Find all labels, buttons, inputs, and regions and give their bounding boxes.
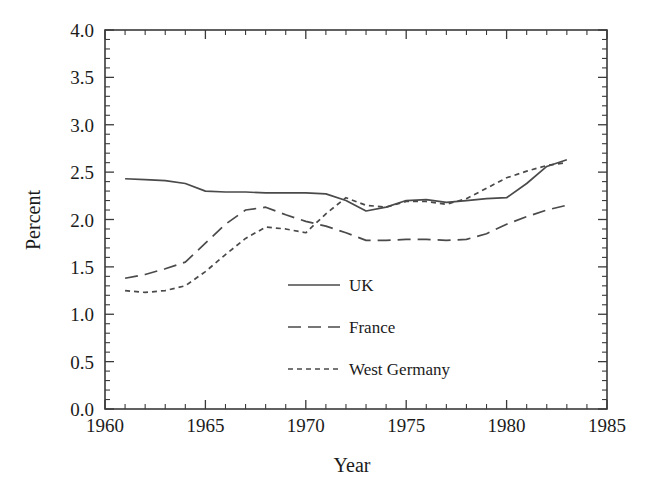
x-tick-label: 1980	[488, 415, 526, 436]
y-axis-title: Percent	[22, 190, 44, 250]
line-chart: 0.00.51.01.52.02.53.03.54.0 196019651970…	[0, 0, 645, 489]
x-tick-label: 1965	[186, 415, 224, 436]
x-tick-label: 1970	[287, 415, 325, 436]
legend-label: France	[349, 318, 395, 337]
legend-label: West Germany	[349, 360, 451, 379]
y-tick-label: 4.0	[70, 20, 94, 41]
legend-item-france[interactable]: France	[288, 318, 395, 337]
plot-frame	[105, 30, 607, 409]
series-line-uk	[125, 160, 567, 211]
x-axis-title: Year	[334, 454, 371, 476]
y-tick-label: 2.0	[70, 210, 94, 231]
y-tick-label: 0.5	[70, 352, 94, 373]
x-axis-ticks	[105, 30, 607, 409]
chart-legend: UKFranceWest Germany	[288, 276, 451, 379]
x-tick-label: 1960	[86, 415, 124, 436]
series-line-france	[125, 205, 567, 278]
data-series-group	[125, 160, 567, 293]
x-tick-label: 1985	[588, 415, 626, 436]
legend-label: UK	[349, 276, 374, 295]
y-tick-label: 3.5	[70, 67, 94, 88]
y-axis-tick-labels: 0.00.51.01.52.02.53.03.54.0	[70, 20, 94, 420]
y-tick-label: 2.5	[70, 162, 94, 183]
y-axis-ticks	[105, 30, 607, 409]
y-tick-label: 1.5	[70, 257, 94, 278]
x-tick-label: 1975	[387, 415, 425, 436]
x-axis-tick-labels: 196019651970197519801985	[86, 415, 626, 436]
legend-item-west-germany[interactable]: West Germany	[288, 360, 451, 379]
y-tick-label: 3.0	[70, 115, 94, 136]
chart-figure: 0.00.51.01.52.02.53.03.54.0 196019651970…	[0, 0, 645, 489]
legend-item-uk[interactable]: UK	[288, 276, 374, 295]
y-tick-label: 1.0	[70, 304, 94, 325]
